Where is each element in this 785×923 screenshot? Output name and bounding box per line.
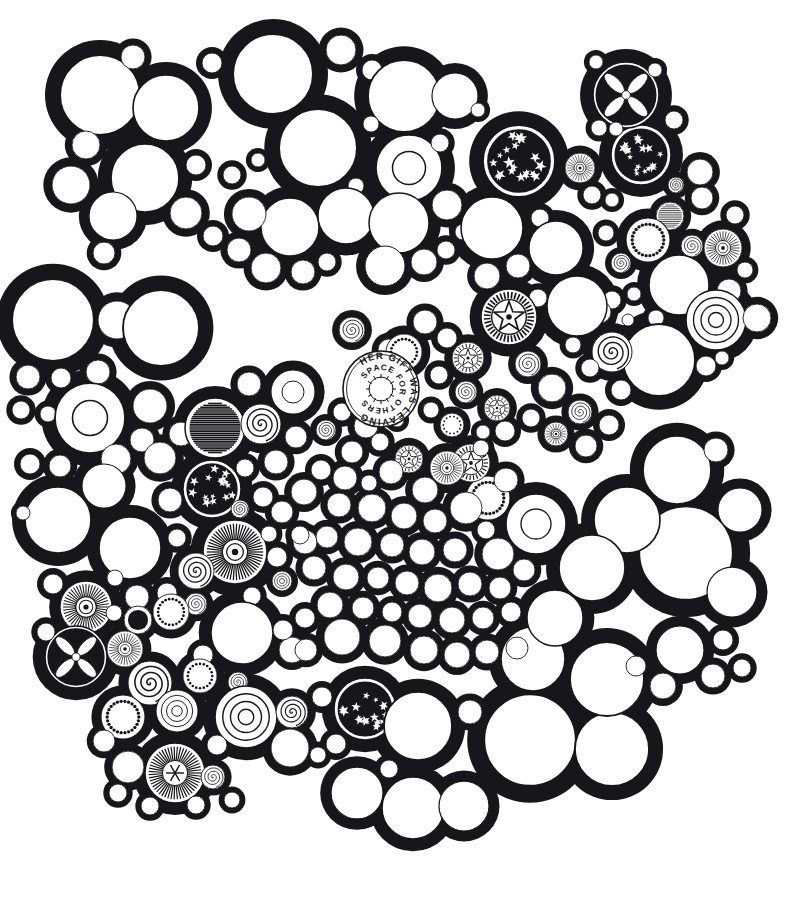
circle-plain (444, 642, 470, 668)
circle-plain (133, 75, 199, 141)
circle-plain (302, 556, 326, 580)
circle-plain (581, 359, 599, 377)
circle-plain (565, 337, 581, 353)
circle-star-medallion (484, 395, 510, 421)
circle-plain (203, 226, 223, 246)
circle-plain (589, 55, 603, 69)
circle-plain (665, 111, 683, 129)
circle-plain (513, 559, 535, 581)
circle-plain (317, 592, 343, 618)
circle-plain (344, 528, 372, 556)
circle-plain (318, 253, 336, 271)
circle-plain (291, 260, 315, 284)
circle-plain (133, 389, 167, 423)
circle-double (506, 494, 566, 554)
circle-radial-burst (107, 631, 143, 667)
circle-plain (121, 45, 145, 69)
circle-plain (285, 426, 307, 448)
circle-plain (495, 421, 515, 441)
circle-plain (570, 642, 644, 716)
circle-plain (52, 166, 90, 204)
circle-plain (144, 442, 176, 474)
circle-plain (718, 488, 762, 532)
circle-spiral (316, 420, 336, 440)
circle-plain (382, 777, 444, 839)
circle-hatched (185, 398, 245, 458)
circle-plain (583, 186, 601, 204)
circle-plain (324, 619, 360, 655)
circle-plain (369, 193, 429, 253)
circle-plain (279, 109, 357, 187)
circle-double (271, 370, 315, 414)
circle-plain (506, 254, 530, 278)
circle-plain (473, 440, 489, 456)
circle-plain (477, 521, 495, 539)
circle-spiral (515, 351, 541, 377)
circle-plain (261, 198, 319, 256)
circle-plain (358, 494, 386, 522)
circle-spiral (681, 235, 703, 257)
circle-plain (326, 734, 346, 754)
circle-star-field (483, 125, 555, 197)
circle-plain (599, 415, 619, 435)
circle-radial-burst (544, 422, 568, 446)
circle-plain (310, 747, 326, 763)
circle-plain (40, 406, 56, 422)
circle-plain (251, 253, 281, 283)
circle-plain (380, 760, 398, 778)
circle-plain (382, 602, 402, 622)
circle-plain (413, 310, 437, 334)
artwork-canvas: HER GIFT WAS LEAVING SPACE FOR OTHERS (0, 0, 785, 923)
circle-plain (598, 225, 614, 241)
circle-plain (527, 590, 583, 646)
circle-plain (295, 639, 317, 661)
circle-plain (472, 607, 494, 629)
circle-plain (107, 570, 123, 586)
circle-plain (12, 401, 30, 419)
circle-plain (186, 155, 206, 175)
circle-plain (51, 368, 71, 388)
circle-plain (365, 246, 405, 286)
circle-plain (626, 656, 646, 676)
circle-plain (112, 751, 144, 783)
circle-dotted-ring (626, 218, 670, 262)
circle-plain (326, 35, 356, 65)
circle-plain (461, 197, 523, 259)
circle-plain (432, 190, 462, 220)
circle-plain (701, 664, 725, 688)
circle-plain (333, 564, 359, 590)
circle-plain (251, 153, 265, 167)
circle-plain (361, 475, 377, 491)
circle-plain (431, 134, 449, 152)
circle-spiral (568, 400, 592, 424)
circle-plain (650, 673, 676, 699)
circle-plain (72, 131, 100, 159)
circle-plain (439, 781, 489, 831)
circle-plain (187, 796, 205, 814)
circle-dotted-ring (153, 594, 189, 630)
circle-plain (458, 572, 482, 596)
circle-plain (223, 166, 241, 184)
circle-plain (82, 464, 126, 508)
circle-plain (743, 304, 771, 332)
circle-plain (443, 538, 467, 562)
circle-plain (49, 455, 71, 477)
circle-spiral (455, 381, 477, 403)
circle-plain (253, 487, 273, 507)
circle-plain (737, 262, 753, 278)
circle-plain (623, 324, 695, 396)
circle-plain (547, 276, 607, 336)
circle-plain (522, 409, 540, 427)
circle-plain (291, 526, 309, 544)
circle-plain (99, 517, 161, 579)
circle-plain (410, 636, 438, 664)
circle-plain (318, 188, 374, 244)
circle-plain (391, 503, 417, 529)
circle-concentric (686, 290, 746, 350)
circle-plain (384, 692, 452, 760)
circle-plain (109, 784, 127, 802)
circle-plain (371, 433, 389, 451)
circle-plain (437, 328, 457, 348)
circle-plain (331, 767, 383, 819)
circle-plain (430, 366, 448, 384)
